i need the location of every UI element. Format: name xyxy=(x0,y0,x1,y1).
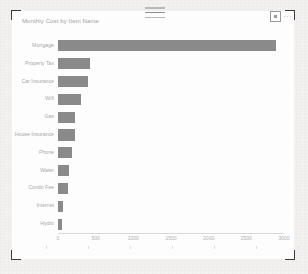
category-label: Gas xyxy=(44,115,54,120)
x-tick-mark xyxy=(298,246,299,249)
x-tick-mark xyxy=(130,246,131,249)
grip-line xyxy=(145,7,165,9)
category-label: Car Insurance xyxy=(21,79,54,84)
category-label: Water xyxy=(40,168,54,173)
bar[interactable] xyxy=(58,129,75,140)
bar[interactable] xyxy=(58,201,63,212)
bar-chart-visual[interactable]: Monthly Cost by Item Name MortgageProper… xyxy=(12,11,294,259)
bar-row[interactable]: Car Insurance xyxy=(58,76,284,87)
x-axis-tick-labels: 050010001500200025003000 xyxy=(58,235,284,247)
x-tick-label: 500 xyxy=(91,235,99,241)
grip-line xyxy=(145,17,165,19)
bar[interactable] xyxy=(58,183,68,194)
bar[interactable] xyxy=(58,94,81,105)
bar-series: MortgageProperty TaxCar InsuranceWifiGas… xyxy=(58,37,284,233)
bar[interactable] xyxy=(58,219,62,230)
bar-row[interactable]: Internet xyxy=(58,201,284,212)
bar-row[interactable]: Water xyxy=(58,165,284,176)
page-title: Monthly Cost by Item Name xyxy=(22,18,99,24)
bar[interactable] xyxy=(58,40,276,51)
visual-header-tools[interactable]: ··· xyxy=(270,11,293,22)
category-label: Condo Fee xyxy=(28,186,54,191)
visual-drag-handle[interactable] xyxy=(144,7,166,18)
bar-row[interactable]: Condo Fee xyxy=(58,183,284,194)
bar-row[interactable]: Hydro xyxy=(58,219,284,230)
x-tick-label: 1500 xyxy=(165,235,176,241)
bar-row[interactable]: Gas xyxy=(58,112,284,123)
x-axis-line xyxy=(58,233,284,234)
x-tick-mark xyxy=(214,246,215,249)
x-tick-mark xyxy=(256,246,257,249)
bar-row[interactable]: Wifi xyxy=(58,94,284,105)
focus-mode-icon[interactable] xyxy=(270,11,281,22)
x-tick-label: 3000 xyxy=(278,235,289,241)
bar-row[interactable]: Phone xyxy=(58,147,284,158)
x-tick-label: 0 xyxy=(57,235,60,241)
bar-row[interactable]: Mortgage xyxy=(58,40,284,51)
x-tick-label: 2500 xyxy=(241,235,252,241)
more-options-icon[interactable]: ··· xyxy=(284,13,293,20)
category-label: Phone xyxy=(39,150,54,155)
x-tick-label: 1000 xyxy=(128,235,139,241)
category-label: Mortgage xyxy=(32,43,54,48)
category-label: Hydro xyxy=(40,221,54,226)
x-tick-label: 2000 xyxy=(203,235,214,241)
x-tick-mark xyxy=(172,246,173,249)
category-label: Internet xyxy=(36,204,54,209)
bar-row[interactable]: Property Tax xyxy=(58,58,284,69)
x-tick-mark xyxy=(88,246,89,249)
grip-line xyxy=(145,12,165,14)
bar[interactable] xyxy=(58,58,90,69)
category-label: House Insurance xyxy=(15,132,54,137)
bar-row[interactable]: House Insurance xyxy=(58,129,284,140)
bar[interactable] xyxy=(58,165,69,176)
bar[interactable] xyxy=(58,76,88,87)
x-tick-mark xyxy=(46,246,47,249)
category-label: Property Tax xyxy=(25,61,54,66)
bar[interactable] xyxy=(58,147,72,158)
bar[interactable] xyxy=(58,112,75,123)
plot-area: MortgageProperty TaxCar InsuranceWifiGas… xyxy=(58,37,284,233)
category-label: Wifi xyxy=(45,97,54,102)
